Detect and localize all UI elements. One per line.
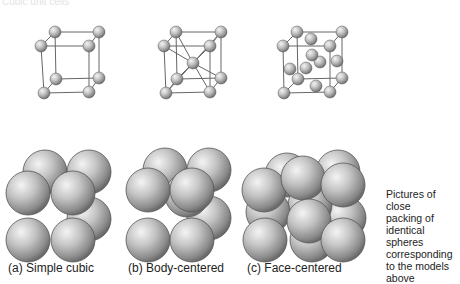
lattice-atom bbox=[336, 72, 348, 84]
packing-note-line: Pictures of close bbox=[386, 188, 460, 212]
caption-face-centered: (c) Face-centered bbox=[247, 261, 342, 275]
lattice-atom bbox=[93, 72, 105, 84]
packed-sphere bbox=[6, 171, 50, 215]
packed-sphere bbox=[242, 168, 286, 212]
packed-sphere bbox=[281, 156, 325, 200]
lattice-atom bbox=[215, 72, 227, 84]
lattice-atom bbox=[306, 49, 318, 61]
packing-note-line: corresponding bbox=[386, 248, 460, 260]
lattice-atom bbox=[204, 40, 216, 52]
caption-body-centered: (b) Body-centered bbox=[128, 261, 224, 275]
lattice-atom bbox=[331, 55, 343, 67]
lattice-atom bbox=[83, 86, 95, 98]
lattice-atom bbox=[300, 62, 312, 74]
packing-model-body-centered bbox=[126, 148, 231, 262]
unit-cell-simple-cubic bbox=[35, 26, 105, 99]
lattice-atom bbox=[93, 26, 105, 38]
packed-sphere bbox=[321, 218, 365, 262]
lattice-atom bbox=[49, 26, 61, 38]
lattice-atom bbox=[170, 26, 182, 38]
lattice-atom bbox=[324, 40, 336, 52]
lattice-atom bbox=[187, 57, 199, 69]
lattice-atom bbox=[171, 73, 183, 85]
lattice-atom bbox=[278, 87, 290, 99]
packed-sphere bbox=[126, 218, 170, 262]
lattice-atom bbox=[310, 80, 322, 92]
lattice-atom bbox=[50, 73, 62, 85]
lattice-atom bbox=[83, 40, 95, 52]
packed-sphere bbox=[51, 171, 95, 215]
packed-sphere bbox=[321, 163, 365, 207]
lattice-atom bbox=[38, 87, 50, 99]
lattice-atom bbox=[336, 26, 348, 38]
lattice-atom bbox=[204, 86, 216, 98]
packed-sphere bbox=[243, 218, 287, 262]
lattice-atom bbox=[291, 26, 303, 38]
lattice-atom bbox=[215, 26, 227, 38]
packing-note: Pictures of close packing of identical s… bbox=[386, 188, 460, 284]
lattice-atom bbox=[277, 40, 289, 52]
packed-sphere bbox=[51, 218, 95, 262]
caption-simple-cubic: (a) Simple cubic bbox=[8, 261, 94, 275]
packed-sphere bbox=[170, 218, 214, 262]
lattice-atom bbox=[324, 86, 336, 98]
packing-model-face-centered bbox=[242, 150, 366, 262]
packing-note-line: above bbox=[386, 272, 460, 284]
lattice-atom bbox=[158, 40, 170, 52]
packed-sphere bbox=[6, 218, 50, 262]
lattice-atom bbox=[292, 73, 304, 85]
packed-sphere bbox=[170, 168, 214, 212]
packing-note-line: identical spheres bbox=[386, 224, 460, 248]
packing-note-line: packing of bbox=[386, 212, 460, 224]
packing-note-line: to the models bbox=[386, 260, 460, 272]
lattice-atom bbox=[35, 40, 47, 52]
unit-cell-face-centered bbox=[277, 26, 348, 99]
lattice-atom bbox=[284, 63, 296, 75]
packing-model-simple-cubic bbox=[6, 150, 111, 262]
lattice-atom bbox=[160, 87, 172, 99]
lattice-atom bbox=[305, 33, 317, 45]
packed-sphere bbox=[126, 168, 170, 212]
unit-cell-body-centered bbox=[158, 26, 227, 99]
